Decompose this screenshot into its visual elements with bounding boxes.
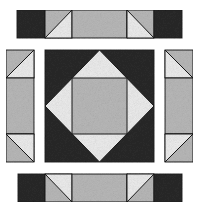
- right-sashing-strip: [165, 50, 193, 162]
- quilt-diagram: [0, 0, 201, 213]
- center-square-in-square-block: [45, 50, 154, 162]
- left-sashing-strip: [6, 50, 34, 162]
- top-sashing-strip: [17, 10, 182, 38]
- bottom-sashing-strip: [18, 174, 182, 202]
